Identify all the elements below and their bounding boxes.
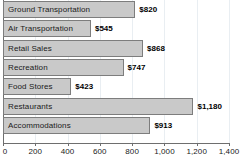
bar-category-label: Recreation bbox=[8, 59, 48, 76]
x-axis-tick-label: 400 bbox=[61, 147, 75, 156]
bar-value-label: $747 bbox=[128, 59, 146, 76]
x-axis-tick-mark bbox=[68, 143, 69, 146]
bar-value-label: $545 bbox=[95, 20, 113, 37]
bar-row: Accommodations$913 bbox=[3, 117, 229, 134]
x-axis-tick-label: 1,400 bbox=[219, 147, 240, 156]
x-axis-tick-label: 800 bbox=[125, 147, 139, 156]
x-axis-tick-label: 600 bbox=[93, 147, 107, 156]
bar-category-label: Air Transportation bbox=[8, 20, 73, 37]
bar-row: Restaurants$1,180 bbox=[3, 98, 229, 115]
bar-value-label: $1,180 bbox=[197, 98, 221, 115]
bar-value-label: $913 bbox=[154, 117, 172, 134]
x-axis-tick-mark bbox=[100, 143, 101, 146]
bar-value-label: $868 bbox=[147, 40, 165, 57]
x-axis-tick-mark bbox=[132, 143, 133, 146]
x-axis-tick-mark bbox=[197, 143, 198, 146]
x-axis-tick-mark bbox=[35, 143, 36, 146]
x-axis-tick-label: 0 bbox=[3, 147, 8, 156]
x-axis-tick-mark bbox=[3, 143, 4, 146]
bar-row: Retail Sales$868 bbox=[3, 40, 229, 57]
bar-row: Food Stores$423 bbox=[3, 78, 229, 95]
x-axis-tick-label: 1,200 bbox=[186, 147, 207, 156]
x-axis-tick-label: 1,000 bbox=[154, 147, 175, 156]
bar-row: Recreation$747 bbox=[3, 59, 229, 76]
bar-category-label: Ground Transportation bbox=[8, 1, 90, 18]
bar-category-label: Food Stores bbox=[8, 78, 53, 95]
x-axis-tick-label: 200 bbox=[28, 147, 42, 156]
bar-row: Air Transportation$545 bbox=[3, 20, 229, 37]
gridline bbox=[229, 0, 230, 143]
x-axis-tick-mark bbox=[229, 143, 230, 146]
x-axis-tick-mark bbox=[164, 143, 165, 146]
bar-category-label: Accommodations bbox=[8, 117, 71, 134]
bar-value-label: $423 bbox=[75, 78, 93, 95]
bar-category-label: Restaurants bbox=[8, 98, 52, 115]
bar-value-label: $820 bbox=[139, 1, 157, 18]
bar-chart: Ground Transportation$820Air Transportat… bbox=[0, 0, 245, 158]
x-axis-line bbox=[3, 143, 229, 144]
bar-category-label: Retail Sales bbox=[8, 40, 52, 57]
bar-row: Ground Transportation$820 bbox=[3, 1, 229, 18]
